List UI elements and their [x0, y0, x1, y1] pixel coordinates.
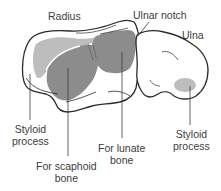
label-ulna: Ulna — [182, 29, 204, 41]
label-styloid-process-ulna: Styloid process — [173, 128, 210, 152]
lunate-facet — [93, 30, 136, 73]
label-for-lunate-bone: For lunate bone — [98, 142, 145, 166]
label-styloid-process-radius: Styloid process — [12, 123, 49, 147]
anatomy-diagram: Radius Ulnar notch Ulna Styloid process … — [0, 0, 221, 191]
label-ulnar-notch: Ulnar notch — [133, 9, 187, 21]
label-for-scaphoid-bone: For scaphoid bone — [36, 160, 97, 184]
label-radius: Radius — [48, 10, 81, 22]
ulna-styloid-articular-surface — [174, 78, 196, 92]
